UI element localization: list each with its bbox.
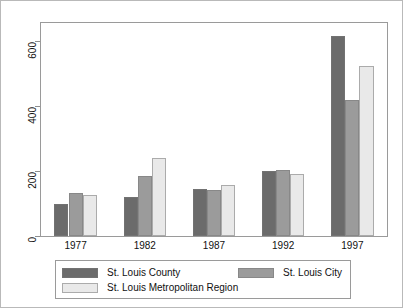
bar[interactable] <box>276 170 290 236</box>
legend-swatch-st-louis-metropolitan-region <box>62 283 98 293</box>
y-axis-tick-label: 200 <box>28 172 38 189</box>
x-axis-tick-label: 1982 <box>110 240 179 252</box>
legend-swatch-st-louis-county <box>62 268 98 278</box>
bar[interactable] <box>152 158 166 236</box>
legend-swatch-st-louis-city <box>238 268 274 278</box>
y-axis-tick-label: 600 <box>28 42 38 59</box>
bar[interactable] <box>83 195 97 236</box>
legend-row: St. Louis County St. Louis City <box>62 265 344 280</box>
bar-group <box>110 23 179 236</box>
bar-group <box>318 23 387 236</box>
legend-entry-st-louis-metropolitan-region: St. Louis Metropolitan Region <box>62 282 238 294</box>
bar[interactable] <box>54 204 68 236</box>
x-axis-tick-label: 1997 <box>318 240 387 252</box>
bar[interactable] <box>193 189 207 236</box>
legend-label-st-louis-city: St. Louis City <box>283 267 342 279</box>
bar-group <box>249 23 318 236</box>
bar[interactable] <box>124 197 138 236</box>
bar[interactable] <box>138 176 152 236</box>
bar-group <box>179 23 248 236</box>
x-axis: 19771982198719921997 <box>41 237 387 255</box>
legend-entry-st-louis-city: St. Louis City <box>238 267 344 279</box>
bar-group <box>41 23 110 236</box>
plot-region: 0200400600 19771982198719921997 <box>9 9 396 255</box>
x-axis-tick-label: 1992 <box>249 240 318 252</box>
legend-row: St. Louis Metropolitan Region <box>62 280 344 295</box>
chart-legend: St. Louis County St. Louis City St. Loui… <box>55 260 351 299</box>
x-axis-tick-label: 1987 <box>179 240 248 252</box>
bar[interactable] <box>69 193 83 236</box>
bars-layer <box>41 23 387 236</box>
y-axis-tick-label: 400 <box>28 107 38 124</box>
legend-label-st-louis-metropolitan-region: St. Louis Metropolitan Region <box>107 282 238 294</box>
y-axis-tick-label: 0 <box>28 237 38 243</box>
legend-entry-st-louis-county: St. Louis County <box>62 267 180 279</box>
bar[interactable] <box>262 171 276 237</box>
bar[interactable] <box>345 100 359 236</box>
bar[interactable] <box>290 174 304 236</box>
y-axis: 0200400600 <box>9 22 40 237</box>
bar[interactable] <box>359 66 373 236</box>
chart-figure: 0200400600 19771982198719921997 St. Loui… <box>0 0 403 308</box>
bar[interactable] <box>207 190 221 236</box>
bar[interactable] <box>331 36 345 236</box>
x-axis-tick-label: 1977 <box>41 240 110 252</box>
bar[interactable] <box>221 185 235 236</box>
legend-label-st-louis-county: St. Louis County <box>107 267 180 279</box>
